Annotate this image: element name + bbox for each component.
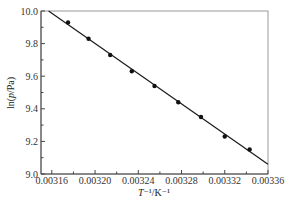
x-tick-label: 0.00332 — [209, 175, 242, 186]
data-point — [152, 84, 156, 88]
x-axis-label: T⁻¹/K⁻¹ — [138, 187, 170, 198]
x-tick-label: 0.00316 — [36, 175, 69, 186]
data-points — [66, 20, 252, 152]
data-point — [176, 100, 180, 104]
y-tick-label: 9.0 — [26, 169, 39, 180]
data-point — [199, 115, 203, 119]
x-tick-label: 0.00320 — [79, 175, 112, 186]
x-axis-ticks: 0.003160.003200.003240.003280.003320.003… — [36, 170, 285, 186]
x-tick-label: 0.00328 — [165, 175, 198, 186]
x-tick-label: 0.00324 — [122, 175, 155, 186]
y-tick-label: 9.2 — [26, 136, 39, 147]
fit-line — [49, 11, 268, 164]
data-point — [86, 37, 90, 41]
y-tick-label: 10.0 — [21, 6, 39, 17]
chart: 0.003160.003200.003240.003280.003320.003… — [0, 0, 290, 216]
y-tick-label: 9.8 — [26, 38, 39, 49]
data-point — [66, 20, 70, 24]
data-point — [223, 134, 227, 138]
data-point — [130, 69, 134, 73]
fit-line-path — [49, 11, 268, 164]
y-tick-label: 9.6 — [26, 71, 39, 82]
x-tick-label: 0.00336 — [252, 175, 285, 186]
data-point — [247, 147, 251, 151]
y-axis-label: ln(p/Pa) — [5, 77, 17, 109]
plot-frame — [41, 11, 268, 174]
y-tick-label: 9.4 — [26, 103, 39, 114]
data-point — [108, 53, 112, 57]
